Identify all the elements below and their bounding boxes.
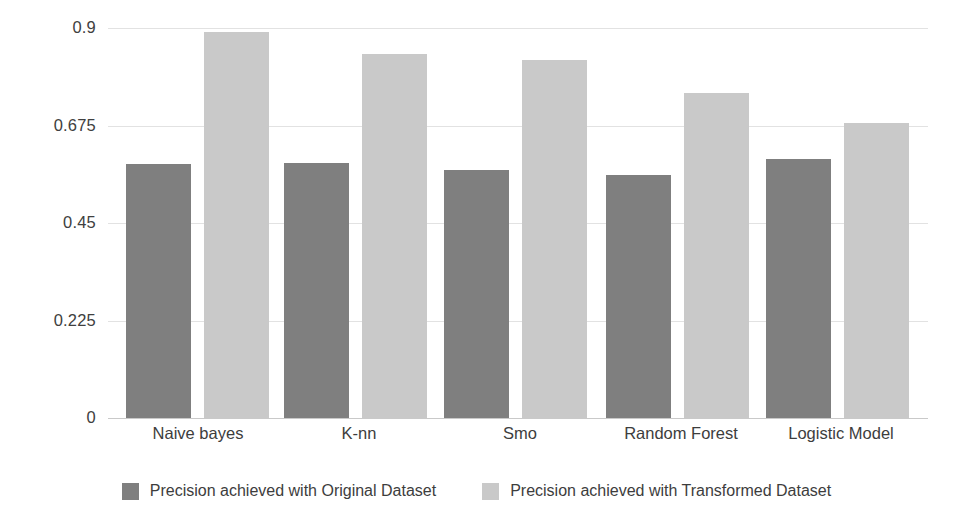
bar-random-forest-original[interactable]	[606, 175, 671, 418]
bar-k-nn-original[interactable]	[284, 163, 349, 418]
bar-logistic-model-original[interactable]	[766, 159, 831, 418]
legend-swatch-icon-original	[122, 483, 139, 500]
x-tick-label-logistic-model: Logistic Model	[751, 424, 931, 443]
bar-group-random-forest	[596, 28, 760, 418]
bar-smo-original[interactable]	[444, 170, 509, 418]
y-tick-label-0: 0	[10, 408, 96, 427]
bar-naive-bayes-transformed[interactable]	[204, 32, 269, 418]
legend-item-original[interactable]: Precision achieved with Original Dataset	[122, 482, 436, 500]
x-axis: Naive bayes K-nn Smo Random Forest Logis…	[108, 424, 928, 450]
gridline-0	[108, 418, 928, 419]
legend-label-original: Precision achieved with Original Dataset	[150, 482, 436, 500]
y-tick-label-0.45: 0.45	[10, 213, 96, 232]
y-tick-label-0.225: 0.225	[10, 311, 96, 330]
x-tick-label-random-forest: Random Forest	[591, 424, 771, 443]
bar-chart: 0.9 0.675 0.45 0.225 0 Naive bayes K	[0, 0, 953, 530]
bar-group-logistic-model	[756, 28, 920, 418]
legend: Precision achieved with Original Dataset…	[0, 482, 953, 500]
bar-k-nn-transformed[interactable]	[362, 54, 427, 418]
y-tick-label-0.675: 0.675	[10, 116, 96, 135]
bar-group-naive-bayes	[116, 28, 280, 418]
bar-naive-bayes-original[interactable]	[126, 164, 191, 418]
bar-group-k-nn	[274, 28, 438, 418]
bar-smo-transformed[interactable]	[522, 60, 587, 418]
legend-swatch-icon-transformed	[482, 483, 499, 500]
bar-logistic-model-transformed[interactable]	[844, 123, 909, 418]
legend-item-transformed[interactable]: Precision achieved with Transformed Data…	[482, 482, 831, 500]
bar-random-forest-transformed[interactable]	[684, 93, 749, 418]
x-tick-label-k-nn: K-nn	[269, 424, 449, 443]
bar-group-smo	[434, 28, 598, 418]
legend-label-transformed: Precision achieved with Transformed Data…	[510, 482, 831, 500]
y-tick-label-0.9: 0.9	[10, 18, 96, 37]
bars-layer	[108, 28, 928, 418]
x-tick-label-naive-bayes: Naive bayes	[108, 424, 288, 443]
x-tick-label-smo: Smo	[430, 424, 610, 443]
